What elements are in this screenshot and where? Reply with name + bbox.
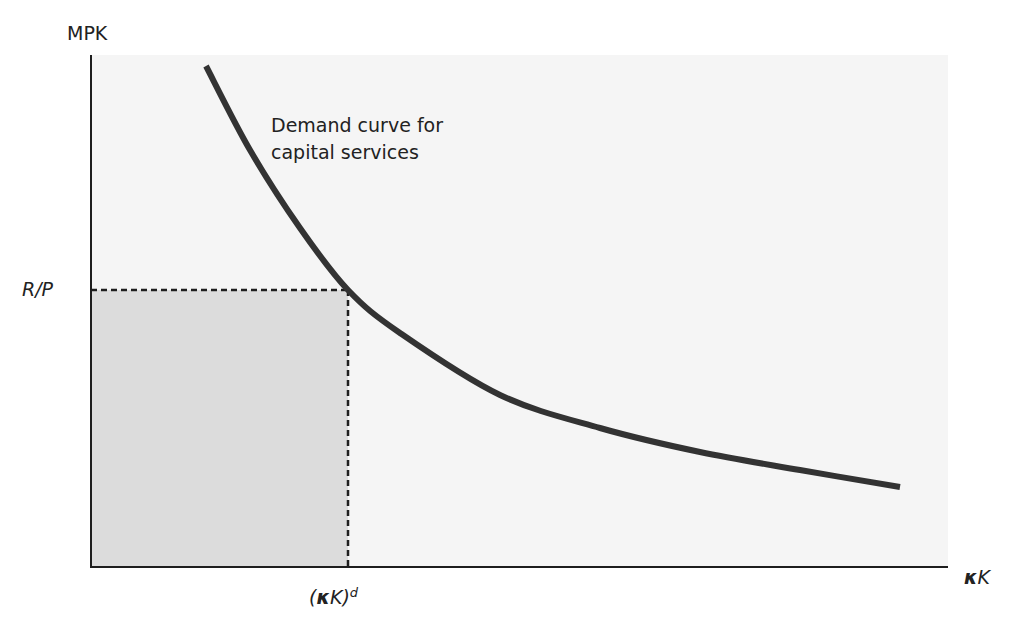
shaded-area	[91, 290, 348, 567]
annotation-line-2: capital services	[271, 139, 443, 166]
kd-kappa: κ	[316, 586, 330, 608]
x-axis-label: κK	[964, 566, 990, 588]
y-axis-label: MPK	[67, 22, 107, 44]
chart-canvas	[0, 0, 1025, 631]
kd-close: )	[342, 586, 349, 608]
x-k: K	[978, 566, 990, 588]
annotation-line-1: Demand curve for	[271, 112, 443, 139]
curve-annotation: Demand curve for capital services	[271, 112, 443, 166]
rp-label: R/P	[22, 278, 53, 300]
kd-sup: d	[350, 585, 358, 600]
kd-k: K	[330, 586, 342, 608]
x-kappa: κ	[964, 566, 978, 588]
kd-label: (κK)d	[309, 585, 358, 608]
